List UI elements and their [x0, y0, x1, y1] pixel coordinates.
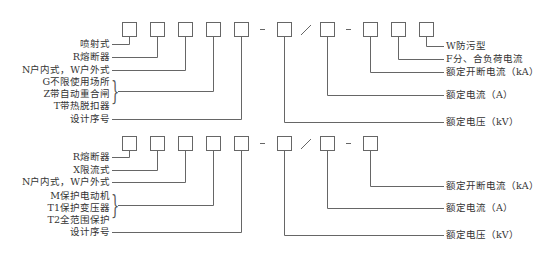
top-label-antifouling: W防污型	[446, 40, 486, 52]
top-label-rated-voltage: 额定电压（kV）	[446, 116, 519, 128]
top-code-boxes	[123, 23, 434, 37]
top-group-label-z: Z带自动重合闸	[43, 88, 110, 100]
top-label-breaking-current: 额定开断电流（kA）	[446, 66, 539, 78]
bottom-brace-icon: }	[111, 192, 119, 218]
bottom-group-label-t2: T2全范围保护	[48, 214, 110, 226]
bottom-group-label-t1: T1保护变压器	[48, 202, 110, 214]
bottom-label-rated-current: 额定电流（A）	[446, 202, 513, 214]
top-label-rated-current: 额定电流（A）	[446, 89, 513, 101]
bottom-label-breaking-current: 额定开断电流（kA）	[446, 180, 539, 192]
top-brace-icon: }	[111, 78, 119, 104]
bottom-label-current-limiting: X限流式	[73, 164, 110, 176]
bottom-label-fuse: R熔断器	[73, 151, 110, 163]
bottom-code-boxes	[123, 137, 378, 151]
top-group-label-g: G不限使用场所	[42, 76, 110, 88]
bottom-label-rated-voltage: 额定电压（kV）	[446, 229, 519, 241]
bottom-label-indoor-outdoor: N户内式，W户外式	[22, 176, 110, 188]
top-label-spray-type: 喷射式	[80, 38, 110, 50]
top-label-fuse: R熔断器	[73, 51, 110, 63]
top-label-load-current: F分、合负荷电流	[446, 53, 523, 65]
bottom-label-serial: 设计序号	[70, 226, 110, 238]
model-code-diagram: 喷射式 R熔断器 N户内式，W户外式 G不限使用场所 Z带自动重合闸 T带热脱扣…	[0, 0, 552, 253]
bottom-group-label-m: M保护电动机	[50, 190, 110, 202]
top-group-label-t: T带热脱扣器	[54, 100, 110, 112]
top-label-indoor-outdoor: N户内式，W户外式	[22, 64, 110, 76]
top-label-serial: 设计序号	[70, 113, 110, 125]
